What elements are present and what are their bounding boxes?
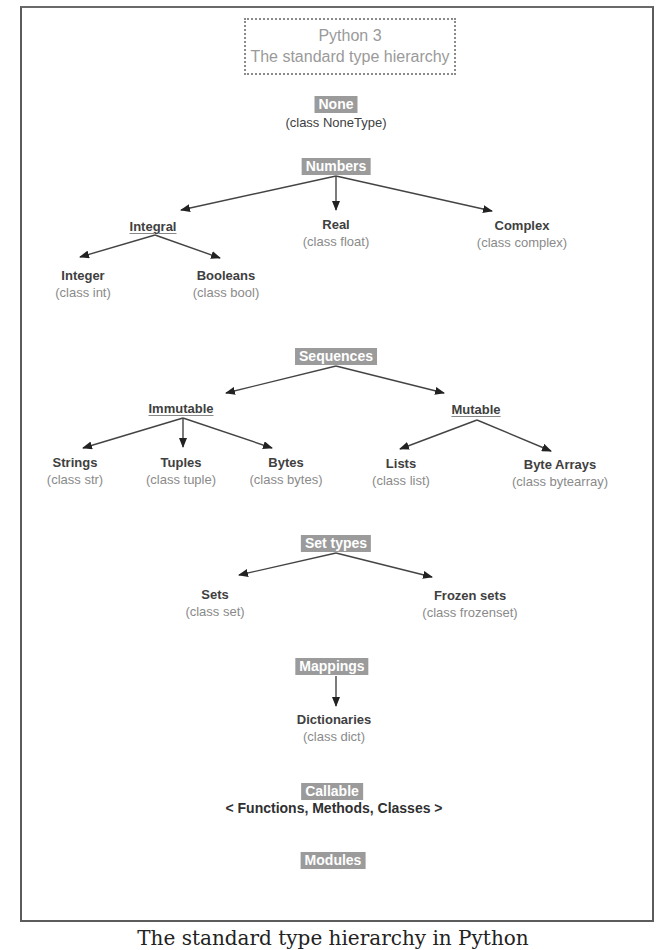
- node-name: Frozen sets: [422, 587, 517, 604]
- node-dictionaries: Dictionaries (class dict): [297, 711, 371, 745]
- node-frozen-sets: Frozen sets (class frozenset): [422, 587, 517, 621]
- node-class: (class bytes): [250, 471, 323, 488]
- node-class: (class tuple): [146, 471, 216, 488]
- node-class: (class dict): [297, 728, 371, 745]
- category-modules: Modules: [301, 852, 366, 869]
- node-class: (class int): [55, 284, 111, 301]
- node-name: Integer: [55, 267, 111, 284]
- category-set-types: Set types: [301, 535, 371, 552]
- category-none: None: [315, 96, 358, 113]
- node-class: (class bytearray): [512, 473, 608, 490]
- node-strings: Strings (class str): [47, 454, 103, 488]
- node-class: (class frozenset): [422, 604, 517, 621]
- node-integer: Integer (class int): [55, 267, 111, 301]
- title-line-1: Python 3: [246, 25, 454, 46]
- node-class: (class str): [47, 471, 103, 488]
- node-bytes: Bytes (class bytes): [250, 454, 323, 488]
- group-mutable: Mutable: [451, 401, 500, 418]
- title-line-2: The standard type hierarchy: [246, 46, 454, 67]
- diagram-title-box: Python 3 The standard type hierarchy: [244, 18, 456, 75]
- node-name: Complex: [477, 217, 567, 234]
- node-name: Strings: [47, 454, 103, 471]
- category-numbers: Numbers: [302, 158, 371, 175]
- node-name: Lists: [372, 455, 430, 472]
- node-name: Byte Arrays: [512, 456, 608, 473]
- node-booleans: Booleans (class bool): [193, 267, 259, 301]
- group-immutable: Immutable: [148, 400, 213, 417]
- group-integral: Integral: [130, 218, 177, 235]
- node-name: Bytes: [250, 454, 323, 471]
- node-name: Real: [303, 216, 369, 233]
- node-real: Real (class float): [303, 216, 369, 250]
- node-name: Dictionaries: [297, 711, 371, 728]
- node-class: (class bool): [193, 284, 259, 301]
- none-class-label: (class NoneType): [285, 114, 386, 131]
- callable-members: < Functions, Methods, Classes >: [225, 800, 442, 816]
- node-name: Tuples: [146, 454, 216, 471]
- node-name: Sets: [185, 586, 244, 603]
- node-sets: Sets (class set): [185, 586, 244, 620]
- node-class: (class float): [303, 233, 369, 250]
- node-name: Booleans: [193, 267, 259, 284]
- node-class: (class complex): [477, 234, 567, 251]
- node-class: (class list): [372, 472, 430, 489]
- category-sequences: Sequences: [295, 348, 377, 365]
- node-lists: Lists (class list): [372, 455, 430, 489]
- category-callable: Callable: [301, 783, 363, 800]
- node-byte-arrays: Byte Arrays (class bytearray): [512, 456, 608, 490]
- node-complex: Complex (class complex): [477, 217, 567, 251]
- node-class: (class set): [185, 603, 244, 620]
- node-tuples: Tuples (class tuple): [146, 454, 216, 488]
- node-none-class: (class NoneType): [285, 114, 386, 131]
- figure-caption: The standard type hierarchy in Python: [0, 926, 666, 950]
- category-mappings: Mappings: [295, 658, 368, 675]
